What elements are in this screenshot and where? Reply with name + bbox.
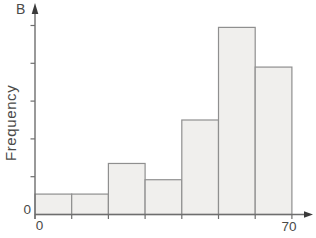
y-axis-arrow-icon [32, 3, 39, 14]
x-axis-arrow-icon [304, 211, 313, 218]
y-axis-zero-label: 0 [20, 203, 31, 217]
histogram-bar [108, 163, 145, 214]
histogram-canvas [0, 0, 316, 238]
histogram-bar [219, 27, 256, 214]
y-axis-title: Frequency [3, 85, 18, 161]
histogram-bar [35, 194, 72, 214]
panel-label: B [16, 2, 25, 16]
histogram-bar [145, 180, 182, 215]
x-axis-min-label: 0 [33, 219, 46, 233]
x-axis-max-label: 70 [280, 220, 298, 234]
histogram-bar [72, 194, 109, 214]
histogram-bar [182, 120, 219, 215]
histogram-bar [255, 67, 292, 214]
histogram-panel: B Frequency 0 0 70 [0, 0, 316, 238]
